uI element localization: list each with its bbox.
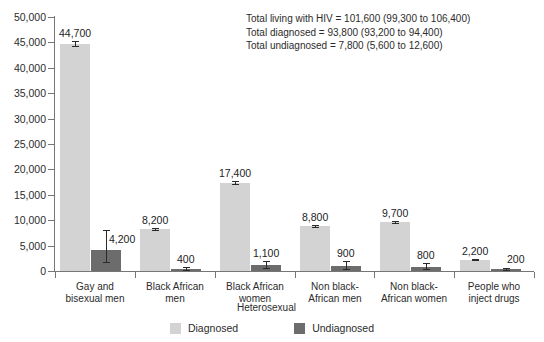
y-axis-tick-label-wrap: 0 — [0, 266, 46, 276]
group-label-heterosexual: Heterosexual — [237, 302, 296, 313]
y-axis-tick-label: 15,000 — [0, 190, 46, 200]
y-axis-tick — [48, 246, 55, 247]
annotation-line-total-diagnosed: Total diagnosed = 93,800 (93,200 to 94,4… — [246, 26, 470, 40]
error-bar-cap-lower — [103, 262, 110, 263]
y-axis-tick-label-wrap: 20,000 — [0, 164, 46, 174]
x-axis-tick — [374, 272, 375, 278]
y-axis-tick — [48, 195, 55, 196]
x-axis-category-label-4: Non black- African women — [374, 281, 454, 304]
error-bar-cap-lower — [423, 269, 430, 270]
error-bar-line — [106, 230, 107, 262]
annotation-line-total-living: Total living with HIV = 101,600 (99,300 … — [246, 12, 470, 26]
value-label-diagnosed-2: 17,400 — [219, 168, 251, 179]
error-bar-cap-upper — [503, 268, 510, 269]
x-axis-category-label-2: Black African women — [215, 281, 295, 304]
hiv-prevalence-bar-chart: Total living with HIV = 101,600 (99,300 … — [0, 0, 544, 342]
legend-item-undiagnosed: Undiagnosed — [294, 323, 374, 334]
error-bar-cap-upper — [232, 181, 239, 182]
value-label-diagnosed-1: 8,200 — [142, 215, 168, 226]
x-axis-category-label-5: People who inject drugs — [454, 281, 534, 304]
x-axis-line — [54, 271, 534, 272]
y-axis-tick — [48, 93, 55, 94]
x-axis-tick — [215, 272, 216, 278]
y-axis-tick-label-wrap: 5,000 — [0, 241, 46, 251]
x-axis-category-label-3: Non black- African men — [295, 281, 375, 304]
value-label-undiagnosed-5: 200 — [507, 254, 525, 265]
x-axis-tick — [295, 272, 296, 278]
error-bar-cap-upper — [423, 263, 430, 264]
y-axis-tick — [48, 271, 55, 272]
error-bar-cap-lower — [263, 268, 270, 269]
legend-label-undiagnosed: Undiagnosed — [312, 323, 374, 334]
error-bar-line — [266, 261, 267, 268]
y-axis-tick-label-wrap: 10,000 — [0, 215, 46, 225]
y-axis-tick-label: 45,000 — [0, 37, 46, 47]
value-label-undiagnosed-3: 900 — [337, 248, 355, 259]
value-label-diagnosed-3: 8,800 — [302, 212, 328, 223]
y-axis-tick-label-wrap: 30,000 — [0, 114, 46, 124]
bar-diagnosed-2 — [220, 183, 250, 271]
legend-label-diagnosed: Diagnosed — [188, 323, 238, 334]
error-bar-cap-lower — [312, 227, 319, 228]
y-axis-tick-label: 50,000 — [0, 12, 46, 22]
x-axis-tick — [454, 272, 455, 278]
value-label-undiagnosed-2: 1,100 — [253, 248, 279, 259]
error-bar-cap-upper — [392, 221, 399, 222]
error-bar-cap-upper — [152, 228, 159, 229]
error-bar-cap-upper — [103, 230, 110, 231]
x-axis-tick — [55, 272, 56, 278]
error-bar-cap-lower — [503, 270, 510, 271]
summary-annotation: Total living with HIV = 101,600 (99,300 … — [246, 12, 470, 53]
error-bar-cap-upper — [72, 41, 79, 42]
y-axis-tick-label: 20,000 — [0, 164, 46, 174]
y-axis-tick — [48, 119, 55, 120]
x-axis-category-label-0: Gay and bisexual men — [55, 281, 135, 304]
error-bar-cap-lower — [183, 270, 190, 271]
y-axis-tick-label: 35,000 — [0, 88, 46, 98]
annotation-line-total-undiagnosed: Total undiagnosed = 7,800 (5,600 to 12,6… — [246, 39, 470, 53]
legend-swatch-diagnosed-icon — [170, 323, 181, 334]
x-axis-tick — [534, 272, 535, 278]
error-bar-cap-upper — [183, 267, 190, 268]
legend-item-diagnosed: Diagnosed — [170, 323, 238, 334]
error-bar-cap-lower — [343, 269, 350, 270]
error-bar-cap-upper — [263, 261, 270, 262]
y-axis-tick — [48, 68, 55, 69]
value-label-diagnosed-0: 44,700 — [59, 28, 91, 39]
y-axis-tick-label: 30,000 — [0, 114, 46, 124]
y-axis-tick-label-wrap: 25,000 — [0, 139, 46, 149]
bar-diagnosed-1 — [140, 229, 170, 271]
y-axis-tick — [48, 144, 55, 145]
value-label-undiagnosed-1: 400 — [177, 254, 195, 265]
value-label-diagnosed-4: 9,700 — [382, 208, 408, 219]
y-axis-tick-label: 40,000 — [0, 63, 46, 73]
bar-diagnosed-3 — [300, 226, 330, 271]
value-label-undiagnosed-0: 4,200 — [109, 234, 135, 245]
error-bar-cap-lower — [152, 230, 159, 231]
value-label-undiagnosed-4: 800 — [417, 250, 435, 261]
y-axis-tick — [48, 42, 55, 43]
y-axis-tick-label-wrap: 50,000 — [0, 12, 46, 22]
x-axis-tick — [135, 272, 136, 278]
y-axis-tick-label: 5,000 — [0, 241, 46, 251]
y-axis-tick — [48, 220, 55, 221]
y-axis-tick-label: 10,000 — [0, 215, 46, 225]
y-axis-tick-label-wrap: 40,000 — [0, 63, 46, 73]
y-axis-tick — [48, 17, 55, 18]
error-bar-cap-lower — [232, 184, 239, 185]
error-bar-cap-upper — [312, 225, 319, 226]
bar-diagnosed-4 — [380, 222, 410, 271]
error-bar-line — [346, 261, 347, 269]
error-bar-cap-lower — [472, 260, 479, 261]
x-axis-category-label-1: Black African men — [135, 281, 215, 304]
y-axis-tick-label: 25,000 — [0, 139, 46, 149]
chart-legend: Diagnosed Undiagnosed — [0, 320, 544, 336]
error-bar-cap-lower — [72, 46, 79, 47]
legend-swatch-undiagnosed-icon — [294, 323, 305, 334]
error-bar-cap-upper — [343, 261, 350, 262]
y-axis-tick-label-wrap: 45,000 — [0, 37, 46, 47]
error-bar-cap-lower — [392, 223, 399, 224]
y-axis-tick-label: 0 — [0, 266, 46, 276]
bar-diagnosed-0 — [60, 44, 90, 271]
y-axis-tick — [48, 169, 55, 170]
